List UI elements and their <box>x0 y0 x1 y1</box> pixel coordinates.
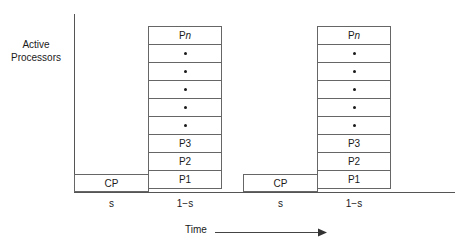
ellipsis-dot-icon <box>149 45 221 63</box>
dot-glyph <box>184 52 187 55</box>
dot-glyph <box>184 124 187 127</box>
segment-label-one-minus-s-2: 1−s <box>317 198 391 209</box>
processor-cell-label: P1 <box>348 175 360 185</box>
processor-cell-index: n <box>186 31 192 41</box>
processor-cell: P3 <box>318 135 390 153</box>
serial-box-label: CP <box>105 178 119 189</box>
y-axis-label-line-2: Processors <box>2 51 70 64</box>
processor-cell-label: P1 <box>179 175 191 185</box>
ellipsis-dot-icon <box>149 81 221 99</box>
dot-glyph <box>353 52 356 55</box>
processor-cell: P2 <box>149 153 221 171</box>
x-axis-line <box>74 192 455 193</box>
ellipsis-dot-icon <box>318 63 390 81</box>
processor-stack-2: PnP3P2P1 <box>317 26 391 189</box>
processor-cell: P2 <box>318 153 390 171</box>
segment-label-one-minus-s-1: 1−s <box>148 198 222 209</box>
processor-cell-label: P <box>179 31 186 41</box>
dot-glyph <box>353 88 356 91</box>
dot-glyph <box>184 106 187 109</box>
processor-cell-label: P2 <box>348 157 360 167</box>
ellipsis-dot-icon <box>149 63 221 81</box>
dot-glyph <box>353 124 356 127</box>
serial-box-2: CP <box>243 174 318 192</box>
diagram-canvas: Active Processors PnP3P2P1 PnP3P2P1 CP C… <box>0 0 466 247</box>
dot-glyph <box>353 70 356 73</box>
time-axis-label: Time <box>185 224 207 235</box>
ellipsis-dot-icon <box>318 99 390 117</box>
y-axis-label: Active Processors <box>2 38 70 64</box>
processor-stack-1: PnP3P2P1 <box>148 26 222 189</box>
right-arrow-icon <box>215 228 327 237</box>
ellipsis-dot-icon <box>318 117 390 135</box>
ellipsis-dot-icon <box>318 81 390 99</box>
processor-cell-label: P3 <box>348 139 360 149</box>
processor-cell: Pn <box>318 27 390 45</box>
segment-label-s-1: s <box>74 198 149 209</box>
serial-box-1: CP <box>74 174 149 192</box>
ellipsis-dot-icon <box>318 45 390 63</box>
ellipsis-dot-icon <box>149 99 221 117</box>
processor-cell: P3 <box>149 135 221 153</box>
processor-cell-label: P <box>348 31 355 41</box>
processor-cell: P1 <box>149 171 221 189</box>
processor-cell-label: P2 <box>179 157 191 167</box>
processor-cell: Pn <box>149 27 221 45</box>
y-axis-line <box>74 14 75 192</box>
processor-cell: P1 <box>318 171 390 189</box>
y-axis-label-line-1: Active <box>2 38 70 51</box>
segment-label-s-2: s <box>243 198 318 209</box>
ellipsis-dot-icon <box>149 117 221 135</box>
processor-cell-label: P3 <box>179 139 191 149</box>
dot-glyph <box>184 70 187 73</box>
processor-cell-index: n <box>355 31 361 41</box>
dot-glyph <box>184 88 187 91</box>
serial-box-label: CP <box>274 178 288 189</box>
dot-glyph <box>353 106 356 109</box>
